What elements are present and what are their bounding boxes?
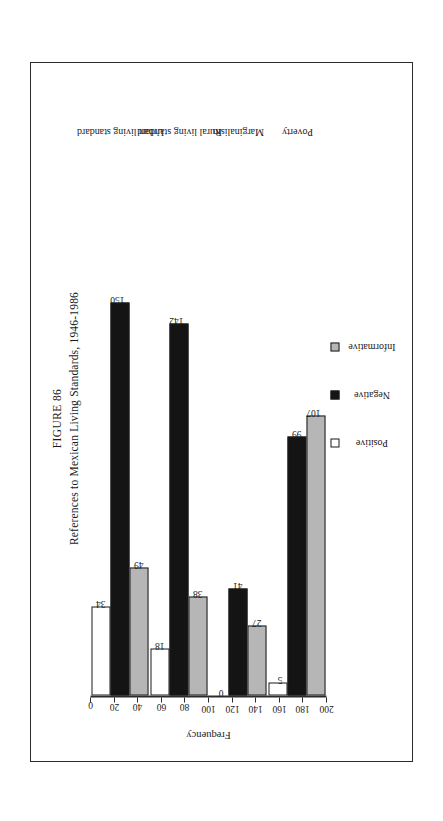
bar-negative[interactable] [169, 323, 188, 695]
bar-row: 142 [169, 171, 188, 696]
y-tick-mark [208, 697, 209, 702]
category-label-text: Poverty [281, 127, 312, 138]
legend-item-positive[interactable]: Positive [330, 436, 399, 450]
bar-value-label: 49 [133, 559, 143, 569]
bar-row: 38 [188, 171, 207, 696]
legend-label-wrap: Negative [343, 377, 399, 413]
y-tick-mark [137, 697, 138, 702]
bar-value-label: 18 [154, 640, 164, 650]
y-tick-label: 140 [248, 704, 262, 714]
legend-swatch-informative [330, 343, 339, 352]
bar-value-label: 99 [291, 428, 301, 438]
y-tick-label: 200 [319, 704, 333, 714]
legend-label: Informative [347, 341, 394, 352]
legend-label: Negative [353, 390, 389, 401]
category-label-cell: Marginalism [208, 93, 267, 171]
y-tick-label: 80 [180, 702, 190, 712]
legend: PositiveNegativeInformative [326, 93, 401, 743]
bar-value-label: 38 [192, 588, 202, 598]
bar-informative[interactable] [247, 625, 266, 696]
bar-informative[interactable] [129, 567, 148, 696]
bar-group: 04127 [208, 171, 267, 696]
legend-label: Positive [355, 437, 387, 448]
y-tick-mark [184, 697, 185, 702]
y-tick-mark [255, 697, 256, 702]
bar-row: 27 [247, 171, 266, 696]
bar-value-label: 27 [251, 617, 261, 627]
figure-title-block: FIGURE 86 References to Mexican Living S… [48, 93, 82, 743]
legend-label-wrap: Positive [343, 427, 399, 459]
y-axis-label: Frequency [90, 727, 326, 743]
legend-item-negative[interactable]: Negative [330, 388, 399, 402]
bars-area: 3415049181423804127599107 [90, 171, 326, 696]
bar-row: 34 [91, 171, 110, 696]
y-tick-mark [113, 697, 114, 702]
bar-negative[interactable] [228, 588, 247, 696]
bar-value-label: 0 [218, 688, 223, 698]
y-axis-label-text: Frequency [186, 730, 230, 741]
page-frame: FIGURE 86 References to Mexican Living S… [30, 62, 413, 762]
y-tick-label: 160 [272, 704, 286, 714]
y-tick-mark [302, 697, 303, 702]
bar-negative[interactable] [287, 436, 306, 696]
rotated-figure-wrapper: FIGURE 86 References to Mexican Living S… [34, 67, 409, 757]
bar-value-label: 107 [305, 407, 319, 417]
legend-label-wrap: Informative [343, 323, 399, 370]
y-tick-label: 40 [132, 702, 142, 712]
y-tick-mark [160, 697, 161, 702]
bar-row: 99 [287, 171, 306, 696]
bar-row: 150 [110, 171, 129, 696]
y-tick-mark [90, 697, 91, 702]
y-tick-label: 20 [109, 702, 119, 712]
y-tick-mark [231, 697, 232, 702]
bar-value-label: 142 [168, 315, 182, 325]
bar-group: 599107 [267, 171, 326, 696]
bar-value-label: 41 [232, 580, 242, 590]
y-tick-label: 120 [224, 704, 238, 714]
bar-row: 0 [209, 171, 228, 696]
category-label-text: Marginalism [212, 127, 263, 138]
y-tick-mark [326, 697, 327, 702]
category-label-cell: Rural living standard [149, 93, 208, 171]
bar-group: 1814238 [149, 171, 208, 696]
bar-informative[interactable] [306, 415, 325, 696]
legend-swatch-negative [330, 391, 339, 400]
figure-caption: References to Mexican Living Standards, … [64, 93, 82, 743]
y-tick-label: 180 [295, 704, 309, 714]
legend-item-informative[interactable]: Informative [330, 340, 399, 354]
bar-row: 49 [129, 171, 148, 696]
bar-row: 18 [150, 171, 169, 696]
y-tick-label: 100 [201, 704, 215, 714]
bar-negative[interactable] [110, 302, 129, 695]
y-axis-ticks: 020406080100120140160180200 [90, 697, 326, 727]
bar-row: 41 [228, 171, 247, 696]
bar-positive[interactable] [150, 648, 169, 695]
y-tick-mark [278, 697, 279, 702]
plot-region: Frequency 020406080100120140160180200 34… [90, 93, 326, 743]
category-labels: Urban living standardRural living standa… [90, 93, 326, 171]
category-label-cell: Poverty [267, 93, 326, 171]
bar-value-label: 34 [95, 598, 105, 608]
bar-row: 107 [306, 171, 325, 696]
bar-value-label: 150 [109, 294, 123, 304]
bar-row: 5 [268, 171, 287, 696]
bar-value-label: 5 [277, 674, 282, 684]
bar-group: 3415049 [90, 171, 149, 696]
figure-number: FIGURE 86 [48, 93, 64, 743]
bar-informative[interactable] [188, 596, 207, 696]
figure: FIGURE 86 References to Mexican Living S… [34, 67, 409, 757]
bar-positive[interactable] [91, 606, 110, 695]
legend-swatch-positive [330, 439, 339, 448]
y-tick-label: 60 [156, 702, 166, 712]
